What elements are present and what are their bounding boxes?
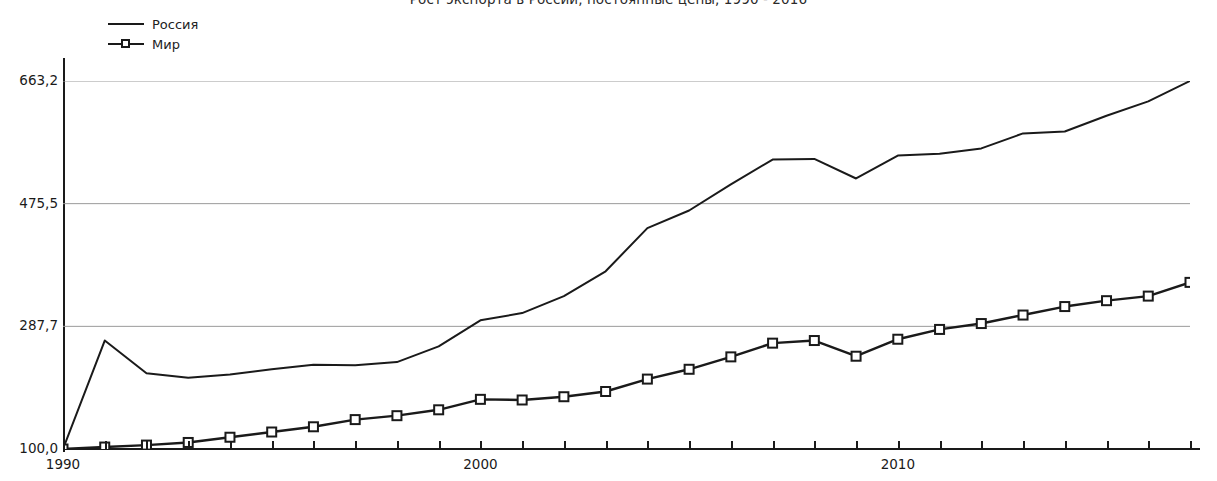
data-point-marker	[559, 392, 568, 401]
x-tick-mark	[63, 441, 65, 450]
x-tick-mark	[1190, 441, 1192, 450]
x-tick-mark	[105, 441, 107, 450]
x-tick-mark	[731, 441, 733, 450]
x-tick-mark	[898, 441, 900, 450]
x-tick-label: 2010	[881, 456, 915, 472]
x-tick-mark	[146, 441, 148, 450]
data-point-marker	[601, 387, 610, 396]
x-tick-mark	[689, 441, 691, 450]
y-tick-label: 100,0	[2, 440, 58, 456]
series-line-rossiya	[63, 81, 1190, 449]
data-point-marker	[852, 352, 861, 361]
y-tick-label: 475,5	[2, 195, 58, 211]
x-tick-mark	[439, 441, 441, 450]
x-tick-mark	[606, 441, 608, 450]
x-tick-mark	[480, 441, 482, 450]
x-tick-mark	[981, 441, 983, 450]
data-point-marker	[392, 411, 401, 420]
x-tick-mark	[1148, 441, 1150, 450]
y-axis-labels: 100,0287,7475,5663,2	[0, 0, 58, 481]
data-point-marker	[476, 395, 485, 404]
x-tick-mark	[1065, 441, 1067, 450]
x-tick-label: 1990	[46, 456, 80, 472]
legend-item-rossiya: Россия	[108, 14, 198, 34]
data-point-marker	[768, 339, 777, 348]
x-tick-mark	[1023, 441, 1025, 450]
x-tick-label: 2000	[463, 456, 497, 472]
data-point-marker	[1186, 278, 1191, 287]
data-point-marker	[726, 352, 735, 361]
data-point-marker	[810, 336, 819, 345]
x-tick-mark	[355, 441, 357, 450]
data-point-marker	[518, 395, 527, 404]
x-tick-mark	[814, 441, 816, 450]
data-point-marker	[267, 428, 276, 437]
data-point-marker	[1102, 296, 1111, 305]
data-point-marker	[1060, 302, 1069, 311]
x-tick-mark	[188, 441, 190, 450]
legend-label-rossiya: Россия	[152, 17, 198, 32]
data-point-marker	[977, 319, 986, 328]
legend-label-mir: Мир	[152, 37, 180, 52]
plot-area	[63, 81, 1190, 449]
chart-legend: Россия Мир	[108, 14, 198, 54]
x-tick-mark	[1107, 441, 1109, 450]
x-tick-mark	[272, 441, 274, 450]
chart-title: Рост экспорта в России, постоянные цены,…	[0, 0, 1217, 7]
data-point-marker	[351, 415, 360, 424]
data-point-marker	[685, 365, 694, 374]
legend-line-icon	[108, 17, 144, 31]
data-point-marker	[893, 335, 902, 344]
y-tick-label: 663,2	[2, 72, 58, 88]
legend-item-mir: Мир	[108, 34, 198, 54]
chart-root: Рост экспорта в России, постоянные цены,…	[0, 0, 1217, 481]
data-point-marker	[1019, 311, 1028, 320]
series-line-mir	[63, 282, 1190, 449]
x-tick-mark	[230, 441, 232, 450]
x-tick-mark	[647, 441, 649, 450]
y-tick-label: 287,7	[2, 317, 58, 333]
legend-line-square-icon	[108, 37, 144, 51]
data-point-marker	[935, 325, 944, 334]
x-tick-mark	[940, 441, 942, 450]
data-point-marker	[434, 405, 443, 414]
x-tick-mark	[313, 441, 315, 450]
x-tick-mark	[397, 441, 399, 450]
data-point-marker	[1144, 292, 1153, 301]
x-tick-mark	[522, 441, 524, 450]
x-tick-mark	[773, 441, 775, 450]
data-point-marker	[309, 422, 318, 431]
chart-canvas	[63, 81, 1190, 449]
x-tick-mark	[564, 441, 566, 450]
data-point-marker	[643, 375, 652, 384]
x-tick-mark	[856, 441, 858, 450]
